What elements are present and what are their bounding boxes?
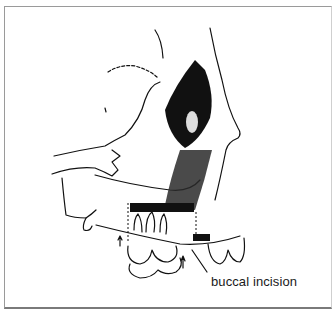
nasal-profile bbox=[210, 28, 240, 200]
cranium-outline bbox=[155, 30, 163, 58]
orbit-shadow bbox=[165, 60, 212, 148]
zygomatic-arch bbox=[54, 82, 160, 156]
pointer-line bbox=[192, 250, 207, 272]
orbit-highlight bbox=[186, 111, 198, 133]
maxilla-shadow bbox=[165, 150, 212, 210]
molars bbox=[128, 246, 177, 264]
osteotomy-cut-horizontal bbox=[130, 203, 194, 212]
tooth-roots bbox=[134, 212, 167, 234]
arrow-up-left bbox=[118, 236, 122, 246]
buccal-incision-label: buccal incision bbox=[211, 274, 297, 289]
skull-maxilla-illustration bbox=[0, 0, 335, 312]
alveolar-line bbox=[96, 225, 240, 244]
